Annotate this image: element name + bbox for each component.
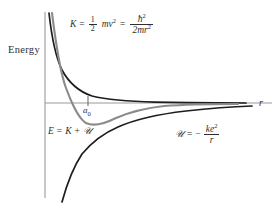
hbar-denominator: 2mr2: [130, 25, 153, 35]
potential-energy-curve: [62, 106, 252, 202]
kinetic-equals-2: =: [120, 19, 125, 29]
total-potential-symbol: 𝒰: [83, 126, 92, 136]
bohr-radius-subscript: 0: [88, 110, 91, 117]
kinetic-velocity-exponent: 2: [113, 17, 116, 24]
bohr-radius-label: a0: [83, 106, 91, 115]
total-energy-equation: E=K+𝒰: [48, 127, 92, 137]
one-half-fraction: 12: [89, 16, 97, 34]
kinetic-energy-equation: K=12mv2=ħ22mr2: [70, 14, 154, 36]
denominator-2mr: 2mr: [132, 25, 147, 35]
denominator-exponent: 2: [148, 23, 151, 30]
potential-lhs-symbol: 𝒰: [175, 129, 184, 139]
total-energy-symbol: E: [48, 126, 54, 136]
energy-diagram-figure: Energy r a0 K=12mv2=ħ22mr2 E=K+𝒰 𝒰=−ke2r: [0, 0, 280, 204]
kinetic-mass-symbol: m: [102, 19, 109, 29]
coulomb-fraction: ke2r: [204, 124, 220, 146]
x-axis-label: r: [259, 98, 263, 108]
total-plus: +: [75, 126, 80, 136]
coulomb-denominator: r: [204, 135, 220, 145]
y-axis-label: Energy: [8, 45, 40, 56]
one-half-denominator: 2: [89, 25, 97, 34]
total-equals: =: [57, 126, 62, 136]
kinetic-equals: =: [79, 19, 84, 29]
total-kinetic-symbol: K: [65, 126, 71, 136]
charge-exponent: 2: [214, 122, 217, 129]
potential-equals: =: [187, 129, 192, 139]
kinetic-lhs: K: [70, 19, 76, 29]
radius-symbol: r: [210, 135, 214, 145]
potential-minus-sign: −: [195, 129, 200, 139]
hbar-fraction: ħ22mr2: [130, 14, 153, 36]
potential-energy-equation: 𝒰=−ke2r: [175, 124, 220, 146]
coulomb-numerator: ke2: [204, 124, 220, 135]
hbar-exponent: 2: [142, 12, 145, 19]
